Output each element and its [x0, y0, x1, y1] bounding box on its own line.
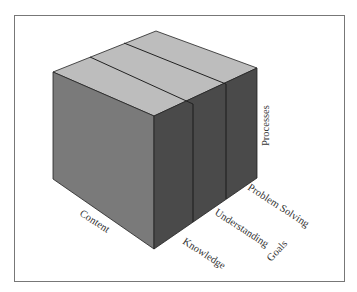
label-understanding: Understanding: [213, 206, 271, 249]
label-problem-solving: Problem Solving: [246, 181, 312, 229]
label-processes: Processes: [260, 105, 271, 146]
cube-diagram: Processes Content Knowledge Understandin…: [0, 0, 357, 292]
label-knowledge: Knowledge: [181, 235, 228, 271]
